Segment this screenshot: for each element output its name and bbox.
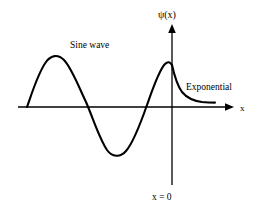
exponential-label: Exponential: [186, 82, 232, 92]
origin-label: x = 0: [152, 192, 172, 202]
figure-canvas: ψ(x) x Sine wave Exponential x = 0: [0, 0, 256, 211]
sine-wave-label: Sine wave: [70, 40, 109, 50]
wavefunction-figure: ψ(x) x Sine wave Exponential x = 0: [0, 0, 256, 211]
figure-background: [0, 0, 256, 211]
y-axis-label: ψ(x): [158, 9, 176, 21]
x-axis-label: x: [240, 103, 245, 113]
